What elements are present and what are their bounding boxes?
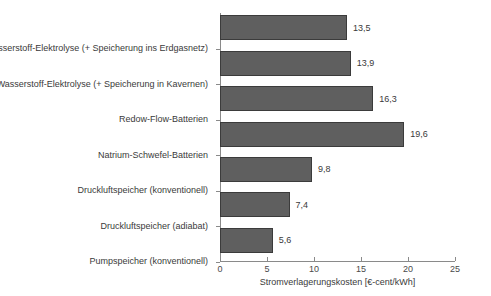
x-axis-tick-label: 0 [217,264,222,274]
x-axis-tick-label: 5 [264,264,269,274]
bar-value-label: 13,9 [357,58,375,68]
chart-figure: Wasserstoff-Elektrolyse (+ Speicherung i… [0,0,491,296]
bar [220,86,373,111]
category-label: Druckluftspeicher (konventionell) [77,185,208,195]
bar-value-label: 5,6 [279,235,292,245]
x-axis-tick-label: 10 [309,264,319,274]
category-label: Wasserstoff-Elektrolyse (+ Speicherung i… [0,43,208,53]
category-label: Wasserstoff-Elektrolyse (+ Speicherung i… [0,79,208,89]
bar-value-label: 7,4 [296,200,309,210]
x-axis-ticks: 0510152025 [220,261,455,262]
bar-value-label: 9,8 [318,164,331,174]
x-axis-tick-label: 25 [450,264,460,274]
x-axis-tick [455,257,456,261]
x-axis-tick [408,257,409,261]
category-axis-labels: Wasserstoff-Elektrolyse (+ Speicherung i… [0,0,214,296]
plot-area: 13,513,916,319,69,87,45,6 [220,13,455,261]
bar [220,51,351,76]
x-axis-tick [220,257,221,261]
category-label: Redow-Flow-Batterien [119,114,208,124]
bar [220,157,312,182]
x-axis-tick [314,257,315,261]
x-axis-tick-label: 15 [356,264,366,274]
category-label: Pumpspeicher (konventionell) [89,256,208,266]
bar-value-label: 16,3 [379,94,397,104]
x-axis-title: Stromverlagerungskosten [€-cent/kWh] [220,277,455,287]
bar [220,122,404,147]
category-label: Druckluftspeicher (adiabat) [100,221,208,231]
x-axis-tick [361,257,362,261]
category-label: Natrium-Schwefel-Batterien [98,150,208,160]
bar [220,15,347,40]
y-axis-tick [216,262,220,263]
bar [220,228,273,253]
bar-value-label: 19,6 [410,129,428,139]
x-axis-tick [267,257,268,261]
bar [220,192,290,217]
bar-value-label: 13,5 [353,23,371,33]
x-axis-tick-label: 20 [403,264,413,274]
